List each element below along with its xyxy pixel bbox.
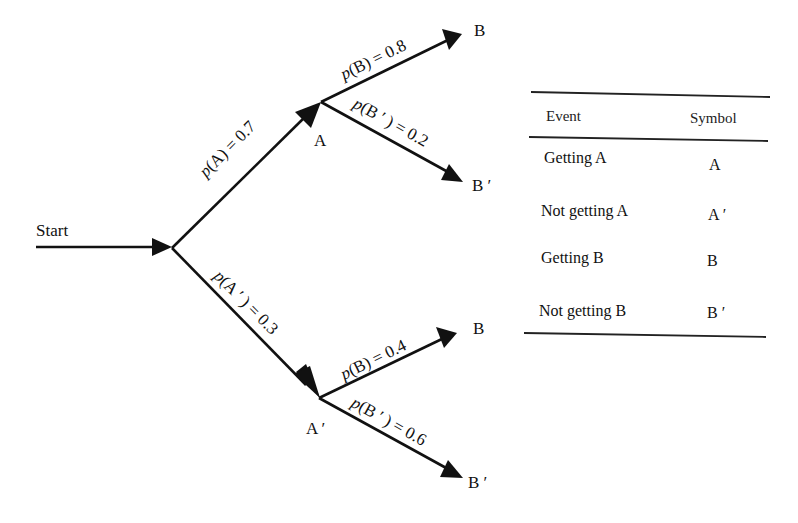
table-bottom-rule — [524, 333, 766, 337]
header-event: Event — [546, 108, 582, 124]
node-b-prime-from-a-label: B ′ — [472, 176, 491, 195]
table-top-rule — [531, 92, 770, 97]
row-event: Getting A — [544, 149, 607, 167]
row-symbol: A — [709, 156, 721, 173]
edge-a-prime-to-b-prime — [319, 398, 463, 478]
table-row: Getting A A — [544, 149, 721, 173]
table-row: Not getting B B ′ — [539, 302, 725, 321]
edge-start-to-a-prime — [172, 248, 320, 398]
edge-label-p-a-prime: p(A ′ ) = 0.3 — [209, 266, 282, 339]
start-arrow — [36, 238, 172, 256]
table-header-rule — [529, 137, 768, 141]
node-b-from-a-prime-label: B — [473, 319, 484, 338]
row-event: Getting B — [541, 249, 604, 267]
legend-table: Event Symbol Getting A A Not getting A A… — [524, 92, 770, 337]
node-b-from-a-label: B — [474, 21, 485, 40]
row-event: Not getting A — [541, 202, 629, 220]
row-event: Not getting B — [539, 302, 626, 320]
row-symbol: A ′ — [708, 206, 726, 223]
node-a-prime-label: A ′ — [306, 419, 325, 438]
table-row: Getting B B — [541, 249, 718, 269]
edge-label-p-b-prime-given-a: p(B ′ ) = 0.2 — [349, 93, 431, 150]
node-a-label: A — [314, 131, 327, 150]
header-symbol: Symbol — [690, 110, 737, 126]
row-symbol: B — [707, 252, 718, 269]
row-symbol: B ′ — [707, 304, 725, 321]
probability-tree-diagram: Start p(A) = 0.7 p(A ′ ) = 0.3 A p(B) = … — [0, 0, 798, 523]
table-row: Not getting A A ′ — [541, 202, 726, 223]
start-label: Start — [36, 221, 68, 240]
node-b-prime-from-a-prime-label: B ′ — [468, 473, 487, 492]
